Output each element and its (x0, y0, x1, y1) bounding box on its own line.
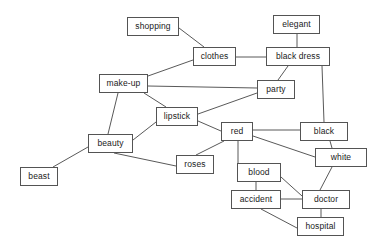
edge-clothes-make_up (148, 60, 193, 76)
node-label-roses: roses (184, 160, 205, 169)
node-label-black: black (314, 127, 334, 136)
diagram-canvas: shoppingelegantclothesblack dressmake-up… (0, 0, 378, 247)
node-red[interactable]: red (221, 122, 253, 141)
node-label-make_up: make-up (107, 79, 141, 88)
node-label-red: red (231, 127, 244, 136)
node-clothes[interactable]: clothes (193, 47, 236, 66)
node-label-white: white (331, 153, 351, 162)
node-label-clothes: clothes (201, 52, 229, 61)
edge-lipstick-beauty (133, 122, 156, 140)
node-doctor[interactable]: doctor (302, 190, 350, 209)
edge-black-white (330, 141, 332, 148)
node-label-shopping: shopping (135, 22, 170, 31)
node-label-beast: beast (28, 172, 49, 181)
edge-red-roses (196, 141, 224, 155)
node-make_up[interactable]: make-up (99, 74, 148, 93)
edge-black_dress-party (278, 66, 288, 80)
edge-make_up-beauty (108, 93, 118, 134)
edge-make_up-party (148, 86, 257, 88)
edge-lipstick-red (198, 121, 221, 131)
node-elegant[interactable]: elegant (273, 15, 320, 34)
node-roses[interactable]: roses (176, 155, 214, 174)
node-black_dress[interactable]: black dress (266, 47, 330, 66)
node-party[interactable]: party (257, 80, 295, 99)
node-label-doctor: doctor (314, 195, 338, 204)
node-label-accident: accident (240, 195, 272, 204)
node-label-hospital: hospital (305, 222, 335, 231)
node-label-blood: blood (248, 168, 269, 177)
node-hospital[interactable]: hospital (297, 217, 344, 236)
node-accident[interactable]: accident (231, 190, 281, 209)
node-label-elegant: elegant (282, 20, 311, 29)
node-label-black_dress: black dress (276, 52, 320, 61)
node-beast[interactable]: beast (20, 167, 58, 186)
node-beauty[interactable]: beauty (88, 134, 133, 153)
edge-beauty-roses (114, 153, 176, 166)
node-blood[interactable]: blood (237, 163, 281, 182)
node-black[interactable]: black (300, 122, 348, 141)
edge-blood-doctor (281, 177, 302, 196)
edge-party-lipstick (198, 93, 257, 114)
node-label-beauty: beauty (97, 139, 123, 148)
node-label-party: party (266, 85, 285, 94)
edge-accident-hospital (261, 209, 297, 228)
node-shopping[interactable]: shopping (127, 17, 179, 36)
node-white[interactable]: white (315, 148, 367, 167)
edge-black_dress-black (322, 66, 324, 122)
edge-make_up-lipstick (144, 93, 166, 107)
node-lipstick[interactable]: lipstick (156, 107, 198, 126)
node-label-lipstick: lipstick (164, 112, 190, 121)
edge-beauty-beast (53, 147, 88, 167)
edge-white-doctor (320, 167, 332, 190)
edge-shopping-clothes (179, 28, 204, 47)
